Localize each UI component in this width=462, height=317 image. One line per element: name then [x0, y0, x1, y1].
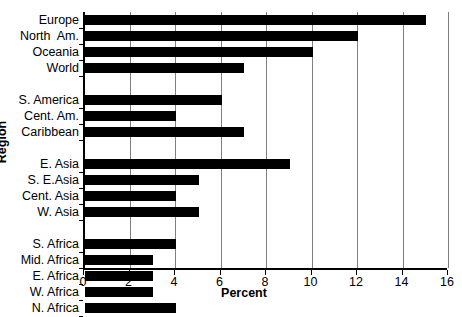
y-tick-mark	[79, 140, 83, 141]
y-tick-label: Cent. Am.	[0, 108, 79, 124]
x-tick-label: 16	[427, 275, 462, 289]
y-tick-mark	[79, 204, 83, 205]
y-tick-mark	[79, 108, 83, 109]
y-tick-label: North Am.	[0, 28, 79, 44]
y-tick-label: E. Asia	[0, 156, 79, 172]
x-tick-label: 2	[109, 275, 149, 289]
bar	[85, 303, 176, 313]
y-tick-label: Cent. Asia	[0, 188, 79, 204]
y-tick-mark	[79, 60, 83, 61]
y-axis-title: Region	[0, 121, 9, 163]
y-tick-label: Oceania	[0, 44, 79, 60]
x-tick-label: 14	[382, 275, 422, 289]
y-tick-mark	[79, 172, 83, 173]
y-tick-mark	[79, 220, 83, 221]
y-tick-label: World	[0, 60, 79, 76]
x-tick-label: 12	[336, 275, 376, 289]
y-tick-mark	[79, 28, 83, 29]
y-tick-mark	[79, 44, 83, 45]
y-tick-mark	[79, 76, 83, 77]
y-tick-mark	[79, 124, 83, 125]
x-axis-title-text: Percent	[184, 286, 304, 300]
y-tick-label: S. E.Asia	[0, 172, 79, 188]
y-tick-mark	[79, 188, 83, 189]
y-axis-tick-labels: EuropeNorth Am.OceaniaWorldS. AmericaCen…	[0, 12, 462, 270]
x-tick-label: 0	[63, 275, 103, 289]
y-tick-label: N. Africa	[0, 300, 79, 316]
y-tick-label: Europe	[0, 12, 79, 28]
bar-row	[85, 300, 449, 316]
y-tick-label: S. Africa	[0, 236, 79, 252]
y-tick-label: W. Asia	[0, 204, 79, 220]
y-tick-label: Caribbean	[0, 124, 79, 140]
y-tick-mark	[79, 252, 83, 253]
y-tick-mark	[79, 300, 83, 301]
y-tick-label: Mid. Africa	[0, 252, 79, 268]
y-tick-label: S. America	[0, 92, 79, 108]
y-tick-mark	[79, 268, 83, 269]
